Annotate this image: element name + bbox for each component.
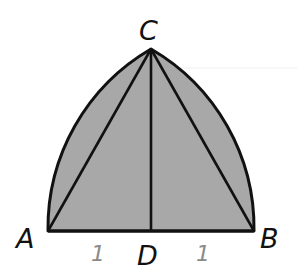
point-label-D: D <box>137 240 158 271</box>
point-label-A: A <box>14 223 34 254</box>
point-label-C: C <box>139 15 158 46</box>
reuleaux-triangle-diagram: C A B D 1 1 <box>0 0 297 277</box>
length-label-AD: 1 <box>91 241 105 266</box>
length-label-DB: 1 <box>196 241 210 266</box>
point-label-B: B <box>260 223 279 254</box>
